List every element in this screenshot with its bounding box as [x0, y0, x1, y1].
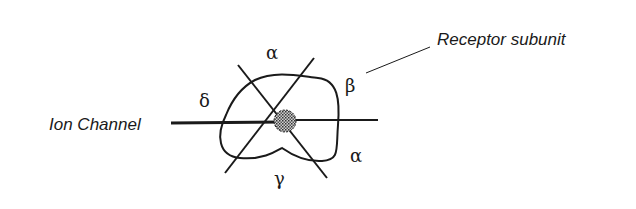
channel-pore: [274, 110, 296, 132]
subunit-delta: δ: [199, 90, 210, 111]
receptor-leader-line: [366, 47, 430, 73]
receptor-subunit-label: Receptor subunit: [437, 30, 566, 50]
subunit-alpha-bottom: α: [350, 145, 362, 166]
subunit-beta: β: [345, 75, 355, 96]
ion-channel-label: Ion Channel: [49, 115, 141, 135]
subunit-alpha-top: α: [266, 42, 278, 63]
subunit-gamma: γ: [274, 168, 285, 189]
